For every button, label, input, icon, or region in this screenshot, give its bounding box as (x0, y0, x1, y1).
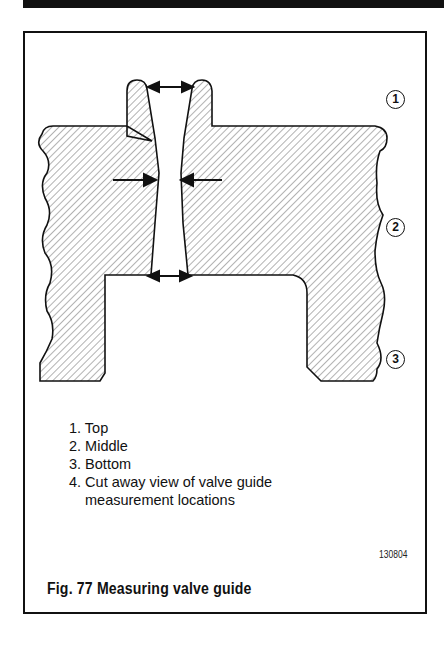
figure-legend: 1. Top 2. Middle 3. Bottom 4. Cut away v… (69, 419, 272, 509)
legend-item-top: 1. Top (69, 419, 272, 437)
figure-reference-code: 130804 (379, 549, 407, 560)
legend-item-cutaway-line2: measurement locations (69, 491, 272, 509)
bottom-measure-arrow (148, 271, 191, 281)
callout-3-bottom: 3 (386, 350, 405, 369)
callout-2-middle: 2 (386, 218, 405, 237)
figure-caption: Fig. 77 Measuring valve guide (47, 580, 252, 598)
legend-item-middle: 2. Middle (69, 437, 272, 455)
top-measure-arrow (148, 82, 193, 92)
page-header-bar (23, 0, 444, 8)
valve-guide-cutaway-diagram (25, 33, 425, 453)
legend-item-cutaway-line1: 4. Cut away view of valve guide (69, 474, 272, 490)
figure-frame: 1 2 3 1. Top 2. Middle 3. Bottom 4. Cut … (23, 31, 427, 614)
left-section (39, 80, 159, 381)
right-section (181, 80, 387, 381)
legend-item-bottom: 3. Bottom (69, 455, 272, 473)
callout-1-top: 1 (386, 90, 405, 109)
legend-item-cutaway: 4. Cut away view of valve guide measurem… (69, 473, 272, 509)
